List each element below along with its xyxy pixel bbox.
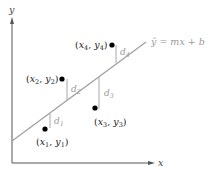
x-axis-arrow-icon xyxy=(148,161,155,165)
point-2 xyxy=(59,76,64,81)
point-4 xyxy=(109,42,114,47)
point-label-3: (x3, y3) xyxy=(94,116,127,129)
deviations xyxy=(50,45,116,128)
point-label-4: (x4, y4) xyxy=(75,39,108,52)
point-1 xyxy=(42,126,47,131)
regression-equation: ŷ = mx + b xyxy=(150,36,205,47)
deviation-label-d1: d1 xyxy=(54,116,64,128)
point-label-1: (x1, y1) xyxy=(36,136,69,149)
deviation-label-d3: d3 xyxy=(104,88,114,100)
point-label-2: (x2, y2) xyxy=(26,73,59,86)
regression-diagram: y x ŷ = mx + b d1 d2 d3 d4 (x1, y1) (x2,… xyxy=(0,0,216,170)
deviation-label-d4: d4 xyxy=(120,47,130,59)
deviation-label-d2: d2 xyxy=(71,84,81,96)
y-axis-label: y xyxy=(8,4,15,15)
x-axis-label: x xyxy=(158,157,164,168)
y-axis-arrow-icon xyxy=(10,17,14,24)
point-3 xyxy=(92,105,97,110)
